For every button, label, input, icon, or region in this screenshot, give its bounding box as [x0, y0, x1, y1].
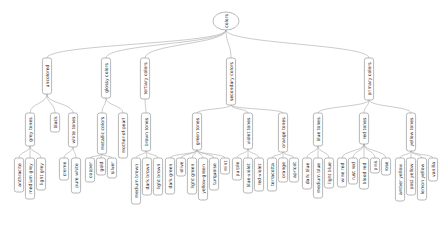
leaf-node-dark-blue[interactable]: dark blue	[302, 158, 311, 189]
node-label: white tones	[71, 116, 76, 143]
node-label: wine red	[340, 163, 345, 183]
node-label: pink	[373, 160, 378, 170]
node-label: dark blue	[305, 162, 310, 184]
node-label: red tones	[362, 117, 367, 139]
node-label: apricot	[292, 162, 297, 178]
leaf-node-purple[interactable]: purple	[232, 158, 241, 180]
node-label: yellow tones	[409, 117, 414, 146]
node-label: mint	[223, 161, 228, 172]
leaf-node-turquoise[interactable]: turquoise	[209, 158, 218, 190]
level1-node-uncolored[interactable]: uncolored	[42, 58, 51, 94]
leaf-node-medium-brown[interactable]: medium brown	[131, 158, 140, 204]
node-label: light blue	[327, 162, 332, 184]
node-label: terracotta	[270, 163, 275, 186]
leaf-node-light-green[interactable]: light green	[187, 158, 196, 194]
leaf-node-gold[interactable]: gold	[96, 158, 105, 175]
node-label: rust red	[351, 162, 356, 180]
node-label: black	[53, 116, 58, 129]
leaf-node-rust-red[interactable]: rust red	[348, 158, 357, 184]
node-label: blue-violet	[246, 163, 251, 187]
node-label: olive	[179, 161, 184, 172]
level2-node-black[interactable]: black	[50, 113, 59, 132]
leaf-node-pink[interactable]: pink	[370, 158, 379, 173]
level1-node-tertiary[interactable]: tertiary colors	[140, 58, 149, 99]
leaf-node-pure-white[interactable]: pure white	[71, 158, 80, 193]
node-label: dark green	[168, 163, 173, 188]
leaf-node-medium-grey[interactable]: medium grey	[25, 158, 34, 199]
level2-node-orange-tones[interactable]: orange tones	[278, 113, 287, 152]
level2-node-mother-of-pearl[interactable]: mother-of-pearl	[118, 113, 127, 158]
leaf-node-mint[interactable]: mint	[220, 158, 229, 174]
leaf-node-anthracite[interactable]: anthracite	[14, 158, 23, 192]
level2-node-brown-tones[interactable]: brown tones	[141, 113, 150, 151]
leaf-node-light-grey[interactable]: light grey	[36, 158, 45, 190]
leaf-node-dark-green[interactable]: dark green	[165, 158, 174, 194]
leaf-node-blue-violet[interactable]: blue-violet	[243, 158, 252, 193]
root-node-colors[interactable]: colors	[213, 12, 239, 30]
leaf-node-light-brown[interactable]: light brown	[153, 158, 162, 195]
level2-node-red-tones[interactable]: red tones	[359, 113, 368, 144]
node-label: violet tones	[246, 117, 251, 145]
leaf-node-terracotta[interactable]: terracotta	[267, 158, 276, 191]
level2-node-green-tones[interactable]: green tones	[192, 113, 201, 150]
level2-node-yellow-tones[interactable]: yellow tones	[406, 113, 415, 151]
node-label: red-violet	[257, 163, 262, 185]
node-label: light grey	[39, 163, 44, 185]
node-label: orange tones	[281, 117, 286, 148]
node-label: uncolored	[45, 65, 50, 88]
node-label: medium brown	[134, 164, 139, 199]
node-label: orange	[281, 162, 286, 178]
level1-node-glossy[interactable]: glossy colors	[101, 58, 110, 98]
leaf-node-orange[interactable]: orange	[278, 158, 287, 182]
leaf-node-amber-yellow[interactable]: amber yellow	[395, 158, 404, 201]
level1-node-secondary[interactable]: secondary colors	[226, 58, 235, 105]
node-label: silver	[110, 162, 115, 174]
node-label: light green	[190, 163, 195, 188]
node-label: mother-of-pearl	[121, 118, 126, 154]
node-label: primary colors	[367, 62, 372, 96]
leaf-node-wine-red[interactable]: wine red	[337, 158, 346, 187]
node-label: gold	[99, 161, 104, 171]
leaf-node-apricot[interactable]: apricot	[289, 158, 298, 182]
level2-node-white-tones[interactable]: white tones	[68, 113, 77, 147]
leaf-node-rose[interactable]: rose	[381, 158, 390, 175]
leaf-node-red-violet[interactable]: red-violet	[254, 158, 263, 191]
node-label: dark brown	[145, 163, 150, 189]
node-label: green tones	[195, 117, 200, 145]
node-label: creme	[62, 162, 67, 177]
node-label: metallic colors	[100, 116, 105, 150]
root-node-label: colors	[224, 14, 229, 28]
node-label: copper	[88, 162, 93, 178]
node-label: grey tones	[28, 117, 33, 142]
leaf-node-creme[interactable]: creme	[59, 158, 68, 180]
node-label: medium grey	[28, 163, 33, 194]
node-label: tertiary colors	[143, 62, 148, 95]
node-label: brown tones	[144, 117, 149, 146]
leaf-node-vanilla[interactable]: vanilla	[428, 158, 437, 181]
node-label: blood red	[362, 163, 367, 185]
node-label: purple	[235, 161, 240, 176]
node-label: lemon yellow	[420, 164, 425, 195]
leaf-node-medium-blue[interactable]: medium blue	[313, 158, 322, 198]
leaf-node-dark-brown[interactable]: dark brown	[142, 158, 151, 195]
node-label: blue tones	[316, 117, 321, 142]
node-label: rose	[384, 161, 389, 171]
node-label: secondary colors	[229, 61, 234, 101]
level1-node-primary[interactable]: primary colors	[364, 58, 373, 100]
leaf-node-silver[interactable]: silver	[107, 158, 116, 178]
node-label: anthracite	[17, 163, 22, 187]
leaf-node-olive[interactable]: olive	[176, 158, 185, 176]
leaf-node-blood-red[interactable]: blood red	[359, 158, 368, 189]
level2-node-violet-tones[interactable]: violet tones	[243, 113, 252, 149]
leaf-node-post-yellow[interactable]: post yellow	[406, 158, 415, 195]
level2-node-metallic-colors[interactable]: metallic colors	[97, 113, 106, 154]
leaf-node-lemon-yellow[interactable]: lemon yellow	[417, 158, 426, 200]
leaf-node-yellow-green[interactable]: yellow-green	[198, 158, 207, 200]
color-taxonomy-diagram: colorsuncoloredglossy colorstertiary col…	[0, 0, 448, 237]
level2-node-blue-tones[interactable]: blue tones	[313, 113, 322, 146]
leaf-node-copper[interactable]: copper	[85, 158, 94, 182]
node-label: turquoise	[212, 163, 217, 185]
node-label: post yellow	[409, 163, 414, 189]
leaf-node-light-blue[interactable]: light blue	[324, 158, 333, 188]
level2-node-grey-tones[interactable]: grey tones	[25, 113, 34, 146]
